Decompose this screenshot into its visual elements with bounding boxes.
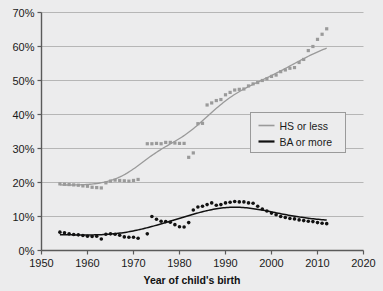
data-point-hs	[100, 186, 103, 189]
data-point-ba	[155, 217, 159, 221]
data-point-ba	[316, 221, 320, 225]
data-point-ba	[320, 222, 324, 226]
data-point-hs	[187, 156, 190, 159]
data-point-hs	[247, 84, 250, 87]
data-point-hs	[270, 75, 273, 78]
data-point-ba	[95, 234, 99, 238]
data-point-ba	[72, 233, 76, 237]
data-point-hs	[137, 178, 140, 181]
x-axis-title: Year of child's birth	[143, 274, 240, 286]
data-point-hs	[104, 181, 107, 184]
data-point-hs	[224, 93, 227, 96]
data-point-ba	[81, 234, 85, 238]
data-point-hs	[109, 180, 112, 183]
data-point-ba	[247, 201, 251, 205]
data-point-ba	[196, 205, 200, 209]
data-point-hs	[63, 183, 66, 186]
data-point-ba	[261, 207, 265, 211]
y-axis-tick-label: 40%	[12, 109, 34, 121]
data-point-ba	[90, 235, 94, 239]
data-point-ba	[104, 232, 108, 236]
x-axis-tick-label: 2020	[351, 257, 375, 269]
data-point-hs	[298, 61, 301, 64]
data-point-ba	[123, 235, 127, 239]
chart-legend[interactable]: HS or lessBA or more	[251, 113, 346, 153]
data-point-ba	[169, 220, 173, 224]
data-point-ba	[132, 235, 136, 239]
y-axis-tick-label: 30%	[12, 143, 34, 155]
data-point-ba	[159, 219, 163, 223]
data-point-hs	[256, 81, 259, 84]
data-point-ba	[302, 219, 306, 223]
scatter-chart: 0%10%20%30%40%50%60%70% 1950196019701980…	[0, 0, 383, 291]
data-point-hs	[132, 179, 135, 182]
data-point-hs	[95, 186, 98, 189]
data-point-hs	[77, 184, 80, 187]
data-point-ba	[251, 201, 255, 205]
legend-label: BA or more	[280, 136, 333, 148]
data-point-ba	[270, 211, 274, 215]
data-point-hs	[325, 27, 328, 30]
data-point-ba	[63, 231, 67, 235]
data-point-hs	[201, 122, 204, 125]
data-point-ba	[233, 200, 237, 204]
data-point-hs	[229, 91, 232, 94]
x-axis-tick-label: 2010	[305, 257, 329, 269]
data-point-ba	[192, 208, 196, 212]
data-point-hs	[206, 103, 209, 106]
y-axis-tick-label: 60%	[12, 41, 34, 53]
data-point-ba	[127, 235, 131, 239]
data-point-ba	[274, 213, 278, 217]
data-point-hs	[118, 179, 121, 182]
data-point-ba	[224, 201, 228, 205]
data-point-ba	[100, 237, 104, 241]
data-point-ba	[205, 203, 209, 207]
data-point-hs	[321, 33, 324, 36]
data-point-hs	[307, 49, 310, 52]
data-point-hs	[233, 88, 236, 91]
data-point-hs	[155, 142, 158, 145]
x-axis-tick-label: 2000	[259, 257, 283, 269]
data-point-hs	[261, 79, 264, 82]
data-point-hs	[215, 99, 218, 102]
x-axis-tick-label: 1990	[213, 257, 237, 269]
data-point-ba	[284, 216, 288, 220]
data-point-hs	[192, 151, 195, 154]
data-point-hs	[183, 142, 186, 145]
data-point-ba	[297, 218, 301, 222]
x-axis-tick-label: 1960	[75, 257, 99, 269]
data-point-ba	[67, 232, 71, 236]
data-point-ba	[58, 230, 62, 234]
data-point-ba	[187, 221, 191, 225]
data-point-hs	[219, 98, 222, 101]
x-axis-tick-label: 1980	[167, 257, 191, 269]
data-point-ba	[279, 215, 283, 219]
x-axis-tick-label: 1950	[29, 257, 53, 269]
data-point-ba	[288, 217, 292, 221]
data-point-ba	[77, 233, 81, 237]
data-point-ba	[238, 200, 242, 204]
data-point-hs	[160, 142, 163, 145]
data-point-hs	[164, 141, 167, 144]
data-point-hs	[173, 141, 176, 144]
data-point-hs	[58, 182, 61, 185]
data-point-ba	[86, 234, 90, 238]
data-point-hs	[238, 88, 241, 91]
data-point-ba	[109, 232, 113, 236]
data-point-ba	[256, 205, 260, 209]
y-axis-tick-label: 20%	[12, 177, 34, 189]
y-axis-tick-label: 0%	[19, 245, 35, 257]
data-point-hs	[81, 184, 84, 187]
data-point-ba	[136, 236, 140, 240]
data-point-ba	[293, 217, 297, 221]
data-point-ba	[210, 201, 214, 205]
data-point-hs	[311, 45, 314, 48]
data-point-hs	[302, 58, 305, 61]
legend-label: HS or less	[280, 120, 328, 132]
data-point-hs	[210, 101, 213, 104]
data-point-hs	[288, 67, 291, 70]
x-axis-tick-label: 1970	[121, 257, 145, 269]
data-point-hs	[275, 73, 278, 76]
data-point-ba	[242, 200, 246, 204]
data-point-hs	[114, 179, 117, 182]
